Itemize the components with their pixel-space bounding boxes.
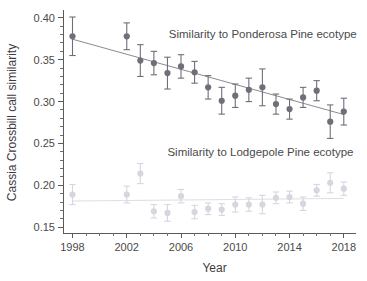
data-point (219, 87, 225, 114)
scatter-plot: 0.150.200.250.300.350.40 199820022006201… (0, 0, 367, 281)
data-point (259, 69, 265, 106)
x-axis-minor-ticks (72, 233, 343, 236)
x-axis-title: Year (202, 261, 226, 275)
data-point (286, 99, 292, 119)
data-point (69, 17, 75, 56)
data-point (273, 94, 279, 114)
data-point (164, 57, 170, 89)
y-tick-label: 0.25 (34, 137, 55, 149)
data-point (164, 205, 170, 222)
data-point (246, 78, 252, 101)
data-point (137, 164, 143, 184)
data-point (191, 205, 197, 218)
y-tick-label: 0.40 (34, 12, 55, 24)
data-point (232, 84, 238, 107)
x-axis-tick-labels: 199820022006201020142018 (60, 241, 356, 253)
x-tick-label: 2018 (332, 241, 356, 253)
chart-figure: 0.150.200.250.300.350.40 199820022006201… (0, 0, 367, 281)
data-point (151, 51, 157, 74)
data-point (259, 195, 265, 213)
data-point (286, 191, 292, 203)
data-point (191, 61, 197, 83)
y-axis-group: 0.150.200.250.300.350.40 (34, 10, 63, 233)
y-tick-label: 0.30 (34, 96, 55, 108)
data-point (178, 189, 184, 202)
data-point (273, 192, 279, 204)
x-tick-label: 2014 (277, 241, 301, 253)
data-point (205, 203, 211, 215)
y-axis-major-ticks (58, 18, 63, 227)
y-tick-label: 0.20 (34, 179, 55, 191)
y-axis-title: Cassia Crossbill call similarity (5, 44, 19, 201)
y-axis-tick-labels: 0.150.200.250.300.350.40 (34, 12, 55, 233)
series-annotation-0: Similarity to Ponderosa Pine ecotype (169, 28, 357, 40)
data-point (69, 184, 75, 204)
x-tick-label: 2010 (223, 241, 247, 253)
data-point (313, 81, 319, 101)
x-tick-label: 2006 (169, 241, 193, 253)
data-point (124, 23, 130, 50)
data-point (137, 45, 143, 77)
data-point (341, 182, 347, 195)
x-axis-group: 199820022006201020142018 (60, 233, 356, 253)
y-tick-label: 0.35 (34, 54, 55, 66)
series-1 (69, 164, 347, 222)
data-point (313, 184, 319, 196)
x-tick-label: 1998 (60, 241, 84, 253)
data-point (178, 55, 184, 78)
data-point (341, 98, 347, 125)
data-series-layer (69, 17, 347, 221)
y-tick-label: 0.15 (34, 221, 55, 233)
data-point (219, 204, 225, 216)
series-annotation-1: Similarity to Lodgepole Pine ecotype (167, 146, 353, 158)
data-point (300, 87, 306, 107)
data-point (205, 76, 211, 99)
x-tick-label: 2002 (115, 241, 139, 253)
data-point (327, 173, 333, 193)
data-point (151, 205, 157, 218)
